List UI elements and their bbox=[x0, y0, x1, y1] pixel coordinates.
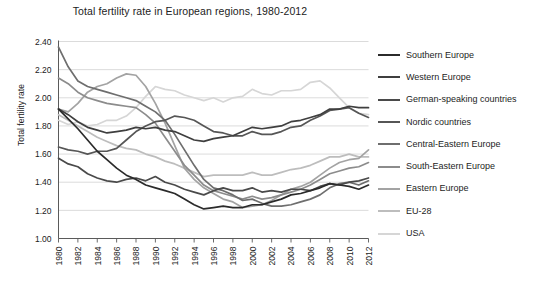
legend-item[interactable]: German-speaking countries bbox=[378, 89, 549, 111]
legend-item-label: EU-28 bbox=[406, 207, 432, 216]
x-tick-label: 1984 bbox=[93, 246, 103, 265]
x-tick-label: 1994 bbox=[190, 246, 200, 265]
x-tick-label: 1986 bbox=[112, 246, 122, 265]
y-tick-label: 1.80 bbox=[35, 121, 52, 131]
legend-item[interactable]: Central-Eastern Europe bbox=[378, 133, 549, 155]
series-line bbox=[59, 106, 369, 141]
legend-item-label: German-speaking countries bbox=[406, 95, 517, 104]
legend-item[interactable]: Eastern Europe bbox=[378, 178, 549, 200]
legend-item[interactable]: Nordic countries bbox=[378, 111, 549, 133]
series-line bbox=[59, 108, 369, 154]
x-tick-label: 2012 bbox=[364, 246, 374, 265]
y-tick-label: 1.00 bbox=[35, 234, 52, 244]
legend-color-swatch bbox=[378, 76, 400, 78]
x-tick-label: 2004 bbox=[286, 246, 296, 265]
legend-color-swatch bbox=[378, 188, 400, 190]
legend-color-swatch bbox=[378, 233, 400, 235]
series-line bbox=[59, 158, 369, 195]
legend-item[interactable]: Southern Europe bbox=[378, 44, 549, 66]
x-tick-label: 2010 bbox=[345, 246, 355, 265]
legend-item-label: Southern Europe bbox=[406, 51, 474, 60]
legend-item[interactable]: Western Europe bbox=[378, 66, 549, 88]
legend-item-label: South-Eastern Europe bbox=[406, 162, 495, 171]
legend-item-label: Central-Eastern Europe bbox=[406, 140, 501, 149]
x-tick-label: 2000 bbox=[248, 246, 258, 265]
y-tick-label: 1.40 bbox=[35, 177, 52, 187]
legend-color-swatch bbox=[378, 143, 400, 145]
y-tick-label: 1.60 bbox=[35, 149, 52, 159]
x-tick-label: 1998 bbox=[228, 246, 238, 265]
x-tick-label: 1996 bbox=[209, 246, 219, 265]
legend-item-label: USA bbox=[406, 229, 425, 238]
x-tick-label: 1988 bbox=[131, 246, 141, 265]
chart-legend: Southern EuropeWestern EuropeGerman-spea… bbox=[378, 44, 549, 245]
x-tick-label: 2006 bbox=[306, 246, 316, 265]
chart-figure: Total fertility rate in European regions… bbox=[0, 0, 549, 283]
legend-item[interactable]: USA bbox=[378, 222, 549, 244]
y-tick-label: 2.40 bbox=[35, 37, 52, 47]
x-tick-label: 2002 bbox=[267, 246, 277, 265]
legend-color-swatch bbox=[378, 99, 400, 101]
legend-color-swatch bbox=[378, 166, 400, 168]
y-tick-label: 1.20 bbox=[35, 206, 52, 216]
legend-item[interactable]: South-Eastern Europe bbox=[378, 155, 549, 177]
x-tick-label: 1992 bbox=[170, 246, 180, 265]
x-tick-label: 1980 bbox=[54, 246, 64, 265]
legend-item-label: Western Europe bbox=[406, 73, 471, 82]
legend-color-swatch bbox=[378, 210, 400, 212]
x-tick-label: 1990 bbox=[151, 246, 161, 265]
x-tick-label: 1982 bbox=[73, 246, 83, 265]
legend-item-label: Nordic countries bbox=[406, 118, 471, 127]
series-line bbox=[59, 115, 369, 177]
legend-color-swatch bbox=[378, 121, 400, 123]
legend-item[interactable]: EU-28 bbox=[378, 200, 549, 222]
legend-color-swatch bbox=[378, 54, 400, 56]
y-tick-label: 2.00 bbox=[35, 93, 52, 103]
legend-item-label: Eastern Europe bbox=[406, 184, 469, 193]
x-tick-label: 2008 bbox=[325, 246, 335, 265]
y-tick-label: 2.20 bbox=[35, 65, 52, 75]
